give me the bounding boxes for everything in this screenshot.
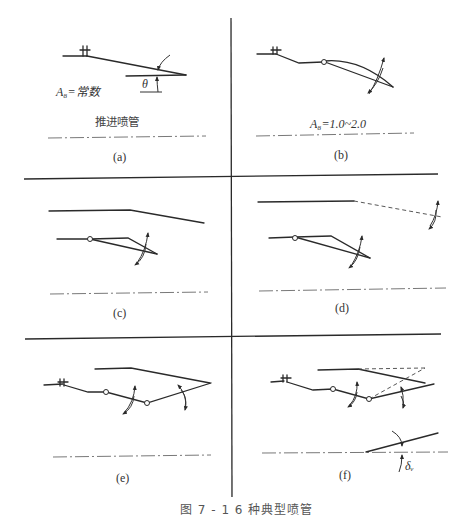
hinge-icon xyxy=(293,236,298,241)
panel-b: A₈=1.0~2.0 (b) xyxy=(256,47,414,162)
angle-theta-label: θ xyxy=(142,77,148,91)
nozzle-figure: θ A₈=常数 推进喷管 (a) A₈=1.0~2.0 (b) (c) xyxy=(0,0,468,523)
figure-caption: 图 7 - 1 6 种典型喷管 xyxy=(180,502,313,517)
hinge-icon xyxy=(145,401,150,406)
angle-delta-label: δᵥ xyxy=(405,459,414,473)
panel-c-label: (c) xyxy=(113,306,126,320)
panel-e: (e) xyxy=(44,368,211,485)
panel-d-label: (d) xyxy=(335,301,349,315)
panel-f-label: (f) xyxy=(339,468,351,482)
area-constant-label: A₈=常数 xyxy=(55,85,102,99)
panel-c: (c) xyxy=(49,210,208,320)
panel-a-description: 推进喷管 xyxy=(95,115,139,129)
hinge-icon xyxy=(331,387,336,392)
hinge-icon xyxy=(367,397,372,402)
nozzle-wall xyxy=(87,56,186,75)
reference-line xyxy=(126,75,186,76)
hinge-icon xyxy=(322,60,327,65)
panel-e-label: (e) xyxy=(116,471,129,485)
panel-a-label: (a) xyxy=(113,150,126,164)
hinge-icon xyxy=(88,237,93,242)
horizontal-divider-bottom xyxy=(25,334,441,339)
panel-a: θ A₈=常数 推进喷管 (a) xyxy=(48,46,206,164)
area-ratio-label: A₈=1.0~2.0 xyxy=(309,117,366,131)
vertical-divider xyxy=(231,18,232,497)
panel-b-label: (b) xyxy=(334,148,348,162)
hinge-icon xyxy=(104,390,109,395)
panel-f: δᵥ (f) xyxy=(262,368,448,482)
panel-d: (d) xyxy=(258,201,446,315)
